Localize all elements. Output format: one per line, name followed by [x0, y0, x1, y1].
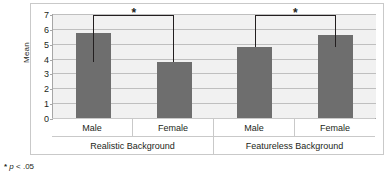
plot-area: 76543210**	[52, 14, 375, 118]
significance-footnote: * p < .05	[4, 162, 34, 171]
y-tick-label-2: 2	[44, 85, 49, 94]
y-axis-title: Mean	[22, 25, 31, 81]
category-label-female-featureless: Female	[295, 119, 375, 136]
plot-canvas: 76543210**	[52, 14, 376, 118]
category-label-male-featureless: Male	[214, 119, 295, 136]
footnote-asterisk: *	[4, 162, 7, 171]
significance-bracket-realistic: *	[93, 15, 174, 61]
significance-asterisk-realistic: *	[94, 7, 173, 19]
category-row-gender: Male Female Male Female	[52, 118, 375, 136]
y-tick-mark-2	[50, 89, 53, 90]
y-tick-label-1: 1	[44, 100, 49, 109]
bar-chart-figure: Mean 76543210** Male Female Male Female …	[0, 0, 388, 182]
bar-male-featureless	[237, 47, 272, 118]
y-tick-label-0: 0	[44, 115, 49, 124]
y-tick-label-7: 7	[44, 11, 49, 20]
group-label-featureless-background: Featureless Background	[214, 137, 375, 154]
y-tick-label-4: 4	[44, 55, 49, 64]
y-tick-mark-7	[50, 15, 53, 16]
significance-asterisk-featureless: *	[256, 7, 335, 19]
category-label-male-realistic: Male	[52, 119, 133, 136]
y-tick-mark-6	[50, 30, 53, 31]
y-tick-mark-3	[50, 74, 53, 75]
bar-female-realistic	[157, 62, 192, 118]
y-tick-mark-1	[50, 104, 53, 105]
y-tick-mark-5	[50, 45, 53, 46]
y-tick-label-3: 3	[44, 70, 49, 79]
y-tick-label-6: 6	[44, 25, 49, 34]
category-row-background: Realistic Background Featureless Backgro…	[52, 136, 375, 154]
bar-female-featureless	[318, 35, 353, 118]
y-tick-mark-4	[50, 60, 53, 61]
footnote-threshold: < .05	[14, 162, 34, 171]
significance-bracket-featureless: *	[255, 15, 336, 46]
group-label-realistic-background: Realistic Background	[52, 137, 214, 154]
category-label-female-realistic: Female	[133, 119, 214, 136]
y-tick-label-5: 5	[44, 40, 49, 49]
